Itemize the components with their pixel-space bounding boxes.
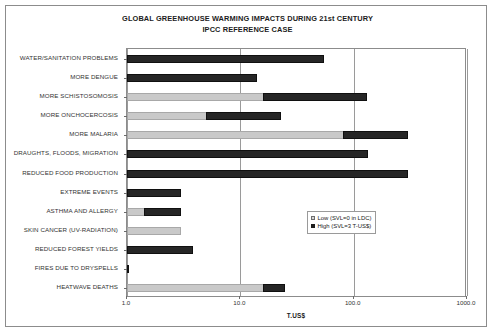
- bar-row: [127, 150, 465, 158]
- stacked-bar: [127, 189, 181, 197]
- category-axis-labels: WATER/SANITATION PROBLEMSMORE DENGUEMORE…: [0, 48, 122, 297]
- bar-row: [127, 112, 465, 120]
- category-label: MORE SCHISTOSOMOSIS: [40, 92, 118, 99]
- bar-rows: [127, 49, 465, 296]
- bar-row: [127, 170, 465, 178]
- bar-row: [127, 74, 465, 82]
- category-label: MORE DENGUE: [70, 73, 118, 80]
- x-axis-tick-label: 100.0: [345, 299, 360, 306]
- category-label: MORE MALARIA: [69, 130, 118, 137]
- bar-segment-high: [127, 55, 324, 63]
- bar-row: [127, 227, 465, 235]
- stacked-bar: [127, 55, 324, 63]
- bar-segment-low: [127, 112, 206, 120]
- chart-title-block: GLOBAL GREENHOUSE WARMING IMPACTS DURING…: [0, 14, 495, 35]
- plot-area: [126, 48, 466, 297]
- x-axis-tick-label: 1000.0: [457, 299, 476, 306]
- bar-row: [127, 246, 465, 254]
- category-label: FIRES DUE TO DRYSPELLS: [35, 264, 118, 271]
- bar-segment-low: [127, 131, 343, 139]
- bar-segment-low: [127, 93, 263, 101]
- chart-subtitle: IPCC REFERENCE CASE: [0, 25, 495, 36]
- bar-segment-high: [206, 112, 281, 120]
- bar-segment-high: [343, 131, 408, 139]
- category-label: REDUCED FOOD PRODUCTION: [22, 169, 118, 176]
- chart-title: GLOBAL GREENHOUSE WARMING IMPACTS DURING…: [0, 14, 495, 25]
- category-label: ASTHMA AND ALLERGY: [46, 207, 118, 214]
- bar-segment-high: [263, 93, 366, 101]
- category-label: MORE ONCHOCERCOSIS: [41, 111, 118, 118]
- legend-item-high: High (SVL=3 T-US$): [311, 222, 371, 230]
- legend-label-high: High (SVL=3 T-US$): [318, 222, 372, 230]
- bar-segment-high: [127, 246, 193, 254]
- bar-segment-high: [127, 170, 408, 178]
- bar-segment-low: [127, 284, 263, 292]
- bar-segment-high: [144, 208, 182, 216]
- x-axis-tick-label: 1.0: [122, 299, 131, 306]
- x-axis-tick-mark: [353, 296, 354, 299]
- legend-swatch-high-icon: [311, 224, 315, 228]
- stacked-bar: [127, 150, 368, 158]
- x-axis-tick-label: 10.0: [233, 299, 245, 306]
- bar-segment-low: [127, 227, 181, 235]
- stacked-bar: [127, 112, 281, 120]
- bar-segment-high: [127, 74, 257, 82]
- x-axis-ticks: 1.010.0100.01000.0: [0, 299, 495, 311]
- bar-row: [127, 265, 465, 273]
- category-label: EXTREME EVENTS: [60, 188, 118, 195]
- legend-label-low: Low (SVL=0 in LDC): [318, 214, 372, 222]
- x-axis-tick-mark: [126, 296, 127, 299]
- stacked-bar: [127, 227, 181, 235]
- category-label: REDUCED FOREST YIELDS: [35, 245, 118, 252]
- bar-row: [127, 131, 465, 139]
- bar-segment-high: [127, 150, 368, 158]
- stacked-bar: [127, 74, 257, 82]
- bar-row: [127, 208, 465, 216]
- x-axis-label: T.US$: [126, 312, 466, 319]
- category-label: WATER/SANITATION PROBLEMS: [20, 54, 118, 61]
- bar-segment-high: [127, 189, 181, 197]
- legend-swatch-low-icon: [311, 216, 315, 220]
- bar-row: [127, 93, 465, 101]
- legend-item-low: Low (SVL=0 in LDC): [311, 214, 371, 222]
- stacked-bar: [127, 246, 193, 254]
- stacked-bar: [127, 93, 367, 101]
- bar-segment-high: [263, 284, 285, 292]
- bar-segment-high: [127, 265, 129, 273]
- stacked-bar: [127, 170, 408, 178]
- category-label: HEATWAVE DEATHS: [57, 283, 118, 290]
- bar-row: [127, 55, 465, 63]
- bar-row: [127, 284, 465, 292]
- stacked-bar: [127, 265, 129, 273]
- bar-segment-low: [127, 208, 144, 216]
- x-axis-tick-mark: [466, 296, 467, 299]
- category-label: SKIN CANCER (UV-RADIATION): [24, 226, 118, 233]
- legend: Low (SVL=0 in LDC) High (SVL=3 T-US$): [307, 211, 376, 234]
- stacked-bar: [127, 208, 181, 216]
- category-label: DRAUGHTS, FLOODS, MIGRATION: [14, 149, 118, 156]
- chart-screenshot: GLOBAL GREENHOUSE WARMING IMPACTS DURING…: [0, 0, 495, 334]
- gridline: [467, 49, 468, 296]
- x-axis-tick-mark: [239, 296, 240, 299]
- bar-row: [127, 189, 465, 197]
- stacked-bar: [127, 284, 285, 292]
- stacked-bar: [127, 131, 408, 139]
